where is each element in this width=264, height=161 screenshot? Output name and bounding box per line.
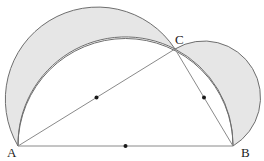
midpoint-ab-dot: [124, 144, 128, 148]
midpoint-cb-dot: [202, 96, 206, 100]
label-b: B: [241, 145, 250, 160]
label-a: A: [7, 145, 17, 160]
lune-ac: [5, 7, 175, 146]
label-c: C: [175, 32, 184, 47]
midpoint-ac-dot: [95, 96, 99, 100]
lune-cb: [175, 41, 261, 146]
lune-diagram: A B C: [0, 0, 264, 161]
